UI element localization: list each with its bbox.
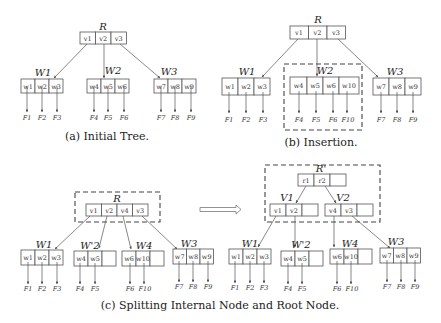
leaf-label: W'2 <box>80 240 99 251</box>
leaf-label: W2 <box>105 65 122 76</box>
svg-text:r1: r1 <box>302 177 309 185</box>
svg-text:F7: F7 <box>382 283 393 291</box>
edge <box>258 216 276 247</box>
svg-text:F6: F6 <box>125 285 135 293</box>
svg-text:F5: F5 <box>103 114 113 122</box>
edge <box>54 44 87 78</box>
data-pointers: F1 F2 F3 F4 F5 F6 F10 F7 F8 F9 <box>230 260 420 293</box>
edge <box>338 39 378 77</box>
svg-text:F9: F9 <box>408 116 418 124</box>
caption-b: (b) Insertion. <box>284 136 357 149</box>
leaf-label: W'2 <box>291 239 310 250</box>
svg-text:w3: w3 <box>257 83 267 91</box>
svg-text:v4: v4 <box>328 207 337 215</box>
svg-text:F5: F5 <box>311 116 321 124</box>
edge <box>296 186 306 203</box>
edge <box>99 216 107 248</box>
edge <box>262 39 298 77</box>
svg-text:F8: F8 <box>188 283 198 291</box>
svg-text:F4: F4 <box>283 285 293 293</box>
svg-text:F5: F5 <box>297 285 307 293</box>
svg-text:F10: F10 <box>341 116 355 124</box>
transition-arrow-icon <box>200 205 241 214</box>
b-tree-diagram: R v1 v2 v3 W1 w1 w2 w3 W2 w4 w <box>0 0 441 323</box>
svg-text:F10: F10 <box>345 285 359 293</box>
root-node: v1 v2 v3 <box>80 32 127 44</box>
svg-text:v2: v2 <box>289 207 298 215</box>
svg-text:v3: v3 <box>331 29 340 37</box>
leaf-label: W3 <box>388 236 405 247</box>
svg-text:F5: F5 <box>90 285 100 293</box>
svg-text:F6: F6 <box>328 116 338 124</box>
svg-text:w1: w1 <box>231 253 241 261</box>
leaf-label: W3 <box>387 66 404 77</box>
caption-c: (c) Splitting Internal Node and Root Nod… <box>101 299 339 312</box>
svg-text:F1: F1 <box>23 285 33 293</box>
root-node: r1 r2 <box>298 174 346 186</box>
data-pointers: F1 F2 F3 F4 F5 F6 F10 F7 F8 F9 <box>224 91 418 124</box>
leaf-label: W1 <box>242 238 259 249</box>
svg-text:F7: F7 <box>376 116 387 124</box>
data-pointers: F1 F2 F3 F4 F5 F6 F10 F7 F8 F9 <box>23 261 213 293</box>
svg-text:F8: F8 <box>170 114 180 122</box>
svg-text:F8: F8 <box>392 116 402 124</box>
svg-text:w10: w10 <box>136 255 150 263</box>
svg-text:w9: w9 <box>202 253 212 261</box>
svg-text:F10: F10 <box>138 285 152 293</box>
svg-text:w10: w10 <box>342 82 356 90</box>
svg-text:w1: w1 <box>23 83 33 91</box>
svg-text:v1: v1 <box>273 207 282 215</box>
leaf-label: W3 <box>181 238 198 249</box>
root-label: R <box>313 14 322 25</box>
svg-text:F3: F3 <box>52 285 62 293</box>
svg-text:F6: F6 <box>119 114 129 122</box>
leaf-label: W2 <box>317 65 334 76</box>
internal-label: V2 <box>336 192 350 203</box>
svg-text:F7: F7 <box>156 114 167 122</box>
svg-text:v3: v3 <box>114 35 123 43</box>
svg-text:r2: r2 <box>318 177 325 185</box>
panel-c-after: R' r1 r2 V1 v1 v2 V2 v4 v3 <box>229 163 421 293</box>
svg-text:F2: F2 <box>241 116 251 124</box>
panel-b: R v1 v2 v3 W1 w1 w2 w3 W2 <box>222 14 421 149</box>
svg-text:w1: w1 <box>225 83 235 91</box>
svg-text:v3: v3 <box>344 207 353 215</box>
svg-text:w8: w8 <box>392 83 402 91</box>
svg-text:F4: F4 <box>89 114 99 122</box>
svg-text:F9: F9 <box>410 283 420 291</box>
panel-a: R v1 v2 v3 W1 w1 w2 w3 W2 w4 w <box>21 21 196 143</box>
leaf-label: W1 <box>36 239 53 250</box>
svg-text:F1: F1 <box>230 284 240 292</box>
svg-text:w2: w2 <box>37 254 47 262</box>
svg-text:F3: F3 <box>258 116 268 124</box>
svg-text:w7: w7 <box>382 252 392 260</box>
svg-text:w9: w9 <box>184 83 194 91</box>
svg-text:w3: w3 <box>259 253 269 261</box>
svg-text:w7: w7 <box>175 253 185 261</box>
svg-text:w5: w5 <box>90 255 100 263</box>
svg-text:F6: F6 <box>332 285 342 293</box>
svg-text:w1: w1 <box>23 254 33 262</box>
edge <box>120 44 160 78</box>
svg-text:v2: v2 <box>313 29 322 37</box>
svg-text:w9: w9 <box>409 252 419 260</box>
leaf-node-w2: w4 w5 w6 w10 <box>290 77 359 94</box>
caption-a: (a) Initial Tree. <box>65 130 149 143</box>
svg-text:w2: w2 <box>245 253 255 261</box>
svg-text:F3: F3 <box>259 284 269 292</box>
internal-node-v2: v4 v3 <box>325 204 373 216</box>
edge <box>325 186 336 203</box>
edge <box>123 216 131 249</box>
svg-text:w5: w5 <box>297 255 307 263</box>
svg-text:w8: w8 <box>188 253 198 261</box>
leaf-label: W4 <box>342 238 359 249</box>
svg-text:w4: w4 <box>76 255 86 263</box>
root-label: R <box>112 193 121 204</box>
svg-text:w10: w10 <box>344 253 358 261</box>
panel-c-before: R v1 v2 v4 v3 W1 w1 w2 w3 W'2 <box>21 192 214 293</box>
svg-text:v2: v2 <box>98 35 107 43</box>
svg-text:w6: w6 <box>124 255 134 263</box>
svg-text:F8: F8 <box>396 283 406 291</box>
svg-text:F2: F2 <box>245 284 255 292</box>
internal-label: V1 <box>280 192 294 203</box>
